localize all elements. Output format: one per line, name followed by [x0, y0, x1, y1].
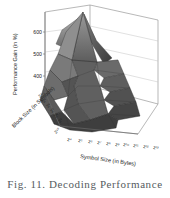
figure-caption-area: Fig. 11. Decoding Performance: [0, 178, 170, 198]
figure-caption: Fig. 11. Decoding Performance: [0, 178, 170, 190]
z-axis: 600 500 400 Performance Gain (in %): [12, 12, 45, 95]
x-tick-4: 2⁸: [106, 141, 111, 147]
x-axis: 2⁴ 2⁵ 2⁶ 2⁷ 2⁸ 2⁹ 2¹⁰ 2¹¹ 2¹² 2¹³ Symbol…: [60, 126, 159, 167]
z-axis-label: Performance Gain (in %): [12, 33, 18, 95]
x-tick-1: 2⁵: [78, 138, 83, 144]
z-tick-600: 600: [33, 29, 42, 35]
surface-chart-svg: 600 500 400 Performance Gain (in %) 2⁴ 2…: [0, 0, 170, 168]
figure-3d-surface-plot: 600 500 400 Performance Gain (in %) 2⁴ 2…: [0, 0, 170, 168]
x-tick-5: 2⁹: [115, 142, 120, 148]
x-axis-label: Symbol Size (in Bytes): [80, 153, 137, 167]
x-tick-2: 2⁶: [88, 139, 93, 145]
x-tick-9: 2¹³: [153, 145, 160, 151]
z-tick-400: 400: [33, 73, 42, 79]
x-tick-8: 2¹²: [143, 144, 150, 150]
x-tick-6: 2¹⁰: [123, 142, 130, 148]
x-tick-7: 2¹¹: [133, 143, 140, 149]
x-tick-0: 2⁴: [67, 137, 72, 143]
z-tick-500: 500: [33, 51, 42, 57]
y-tick-6: 2¹⁰: [53, 127, 61, 135]
z-axis-ticks: 600 500 400: [33, 29, 42, 79]
x-tick-3: 2⁷: [97, 140, 102, 146]
x-axis-ticks: 2⁴ 2⁵ 2⁶ 2⁷ 2⁸ 2⁹ 2¹⁰ 2¹¹ 2¹² 2¹³: [67, 137, 160, 151]
